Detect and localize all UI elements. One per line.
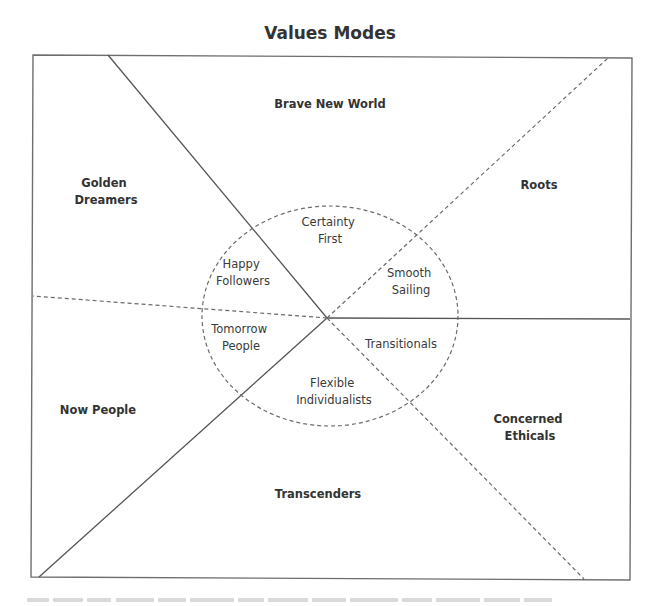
solid-divider-lower-left <box>39 318 327 577</box>
solid-divider-right <box>327 318 630 319</box>
certainty-first-line-1: Certainty <box>302 215 355 229</box>
flexible-individualists-line-2: Individualists <box>296 393 372 407</box>
segment-label-happy-followers: Happy Followers <box>216 257 270 288</box>
segment-label-golden-dreamers: Golden Dreamers <box>74 176 137 207</box>
concerned-ethicals-line-2: Ethicals <box>505 429 556 443</box>
values-modes-diagram: Values Modes Brave New World Golden Drea… <box>0 0 661 606</box>
golden-dreamers-line-2: Dreamers <box>74 193 137 207</box>
tomorrow-people-line-2: People <box>222 339 260 353</box>
certainty-first-line-2: First <box>318 232 343 246</box>
diagram-title: Values Modes <box>264 23 396 43</box>
segment-label-tomorrow-people: Tomorrow People <box>210 322 270 353</box>
happy-followers-line-1: Happy <box>223 257 260 271</box>
segment-label-smooth-sailing: Smooth Sailing <box>387 266 435 297</box>
concerned-ethicals-line-1: Concerned <box>493 412 562 426</box>
segment-label-transitionals: Transitionals <box>364 337 437 351</box>
segment-label-now-people: Now People <box>60 403 136 417</box>
dashed-divider-left <box>33 296 327 318</box>
segment-label-certainty-first: Certainty First <box>302 215 359 246</box>
segment-label-flexible-individualists: Flexible Individualists <box>296 376 372 407</box>
footer-illegible-text <box>27 598 552 602</box>
flexible-individualists-line-1: Flexible <box>310 376 354 390</box>
segment-label-transcenders: Transcenders <box>275 487 362 501</box>
segment-label-roots: Roots <box>521 178 558 192</box>
golden-dreamers-line-1: Golden <box>81 176 127 190</box>
tomorrow-people-line-1: Tomorrow <box>210 322 267 336</box>
segment-label-concerned-ethicals: Concerned Ethicals <box>493 412 566 443</box>
smooth-sailing-line-1: Smooth <box>387 266 431 280</box>
happy-followers-line-2: Followers <box>216 274 270 288</box>
segment-label-brave-new-world: Brave New World <box>274 97 386 111</box>
dashed-divider-lower-right <box>327 318 584 579</box>
smooth-sailing-line-2: Sailing <box>392 283 431 297</box>
